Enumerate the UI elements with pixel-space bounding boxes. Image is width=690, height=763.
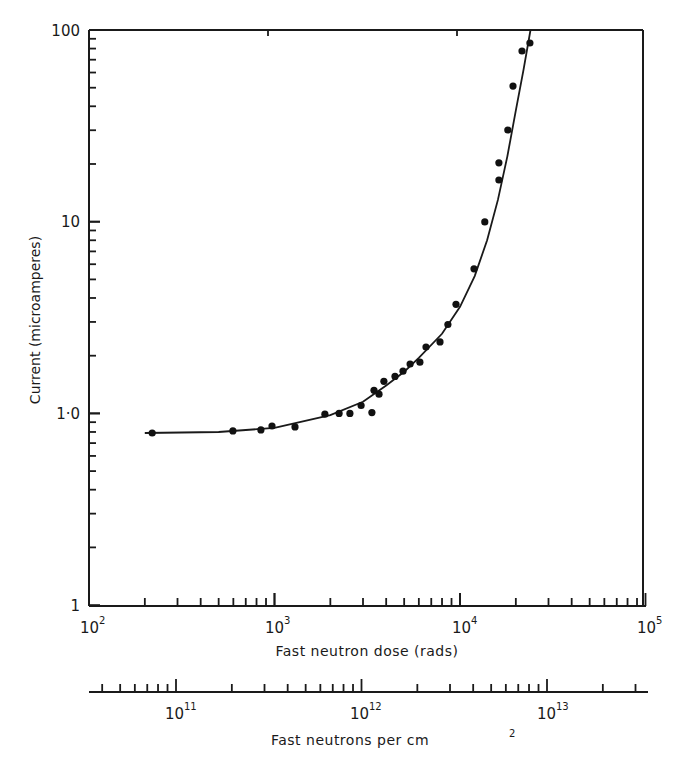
data-point bbox=[368, 409, 375, 416]
x-axis-label: Fast neutron dose (rads) bbox=[275, 643, 458, 659]
data-point bbox=[422, 343, 429, 350]
y-tick-label-1-0: 1·0 bbox=[56, 405, 80, 423]
data-point bbox=[436, 338, 443, 345]
data-point bbox=[399, 368, 406, 375]
svg-text:10: 10 bbox=[265, 619, 284, 637]
data-point bbox=[257, 426, 264, 433]
data-point bbox=[346, 410, 353, 417]
x2-tick-label-1e11: 10 11 bbox=[165, 701, 197, 723]
svg-text:10: 10 bbox=[80, 619, 99, 637]
svg-text:Fast neutrons per cm: Fast neutrons per cm bbox=[271, 732, 429, 748]
x-tick-label-100000: 10 5 bbox=[637, 615, 662, 637]
data-point bbox=[481, 218, 488, 225]
data-point bbox=[149, 429, 156, 436]
data-point bbox=[407, 360, 414, 367]
data-point bbox=[470, 265, 477, 272]
x-tick-label-1000: 10 3 bbox=[265, 615, 290, 637]
svg-text:12: 12 bbox=[369, 701, 382, 712]
data-point bbox=[268, 422, 275, 429]
chart: 100 10 1·0 1 Current (microamperes) 10 2… bbox=[0, 0, 690, 763]
data-point bbox=[380, 378, 387, 385]
svg-text:10: 10 bbox=[452, 619, 471, 637]
data-point bbox=[391, 373, 398, 380]
x2-tick-label-1e12: 10 12 bbox=[350, 701, 382, 723]
svg-text:2: 2 bbox=[509, 728, 515, 739]
secondary-x-axis bbox=[89, 679, 648, 692]
y-tick-label-10: 10 bbox=[61, 213, 80, 231]
data-point bbox=[518, 47, 525, 54]
svg-text:2: 2 bbox=[99, 615, 105, 626]
x-tick-label-10000: 10 4 bbox=[452, 615, 477, 637]
svg-text:10: 10 bbox=[165, 705, 184, 723]
svg-text:10: 10 bbox=[537, 705, 556, 723]
svg-text:5: 5 bbox=[656, 615, 662, 626]
y-tick-label-100: 100 bbox=[51, 22, 80, 40]
y-axis-ticks bbox=[89, 30, 100, 605]
svg-text:10: 10 bbox=[350, 705, 369, 723]
data-point bbox=[321, 411, 328, 418]
data-point bbox=[291, 423, 298, 430]
data-point bbox=[358, 402, 365, 409]
data-point bbox=[495, 159, 502, 166]
secondary-axis-ticks bbox=[102, 679, 635, 692]
data-point bbox=[444, 321, 451, 328]
data-point bbox=[416, 359, 423, 366]
svg-text:3: 3 bbox=[284, 615, 290, 626]
data-point bbox=[229, 427, 236, 434]
x2-tick-label-1e13: 10 13 bbox=[537, 701, 569, 723]
data-point bbox=[452, 301, 459, 308]
secondary-axis-label: Fast neutrons per cm 2 bbox=[271, 728, 515, 748]
data-point bbox=[509, 83, 516, 90]
data-point bbox=[526, 39, 533, 46]
x-axis-ticks bbox=[89, 593, 646, 606]
data-point bbox=[336, 410, 343, 417]
svg-text:11: 11 bbox=[184, 701, 197, 712]
svg-text:13: 13 bbox=[556, 701, 569, 712]
fitted-curve bbox=[145, 30, 531, 433]
y-axis-label: Current (microamperes) bbox=[27, 236, 43, 404]
svg-text:4: 4 bbox=[471, 615, 477, 626]
data-point bbox=[504, 126, 511, 133]
x-tick-label-100: 10 2 bbox=[80, 615, 105, 637]
data-point bbox=[495, 176, 502, 183]
plot-frame bbox=[89, 30, 646, 606]
y-tick-label-1: 1 bbox=[70, 597, 80, 615]
data-points bbox=[149, 39, 534, 436]
svg-text:10: 10 bbox=[637, 619, 656, 637]
data-point bbox=[375, 391, 382, 398]
